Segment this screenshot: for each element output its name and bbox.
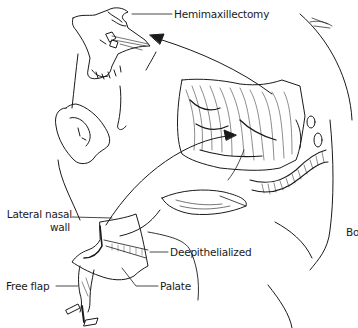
label-lateral-nasal-wall-line1: Lateral nasal bbox=[0, 208, 72, 220]
label-palate: Palate bbox=[160, 280, 191, 292]
vascular-pedicle bbox=[162, 150, 328, 215]
label-free-flap: Free flap bbox=[6, 280, 50, 292]
diagram-canvas: Hemimaxillectomy Lateral nasal wall Deep… bbox=[0, 0, 358, 328]
label-hemimaxillectomy: Hemimaxillectomy bbox=[174, 8, 269, 20]
label-cropped-right: Bo bbox=[346, 226, 358, 238]
arrow-lower bbox=[106, 130, 236, 225]
illustration-artwork bbox=[0, 0, 358, 328]
leader-lateral-nasal-wall bbox=[72, 217, 112, 218]
label-deepithelialized: Deepithelialized bbox=[170, 246, 251, 258]
label-lateral-nasal-wall-line2: wall bbox=[0, 221, 70, 233]
dissection-region bbox=[178, 79, 323, 170]
hemimaxilla-specimen bbox=[72, 8, 150, 79]
